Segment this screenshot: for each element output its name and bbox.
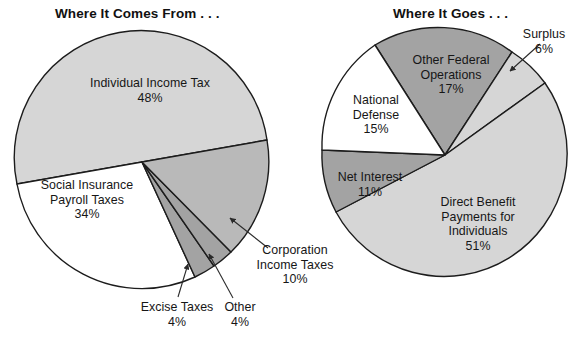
label-other: Other 4%: [210, 300, 270, 329]
label-surplus: Surplus 6%: [512, 27, 576, 56]
figure-root: Where It Comes From . . . Where It Goes …: [0, 0, 580, 348]
label-direct-benefit-payments: Direct Benefit Payments for Individuals …: [424, 195, 532, 253]
label-social-insurance-payroll-taxes: Social Insurance Payroll Taxes 34%: [22, 178, 152, 222]
label-national-defense: National Defense 15%: [336, 93, 416, 137]
left-pie-group: [14, 31, 269, 298]
label-individual-income-tax: Individual Income Tax 48%: [60, 76, 240, 105]
label-other-federal-operations: Other Federal Operations 17%: [396, 53, 506, 97]
label-net-interest: Net Interest 11%: [326, 170, 414, 199]
label-corporation-income-taxes: Corporation Income Taxes 10%: [240, 243, 350, 287]
